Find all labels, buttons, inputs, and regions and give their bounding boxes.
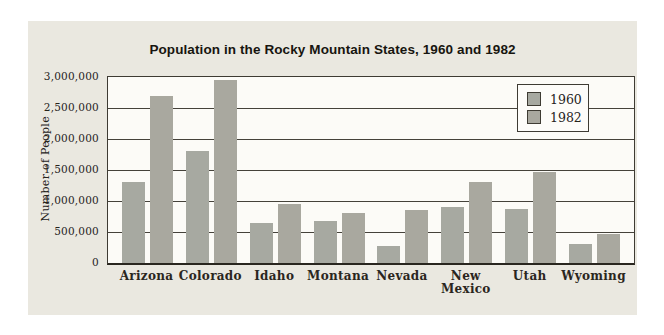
bar-wyoming-1960 (569, 244, 592, 263)
bar-idaho-1960 (250, 223, 273, 263)
bar-wyoming-1982 (597, 234, 620, 263)
bar-group-colorado (186, 80, 237, 263)
x-axis-labels: ArizonaColoradoIdahoMontanaNevadaNew Mex… (107, 270, 633, 304)
bar-group-arizona (122, 96, 173, 263)
bar-colorado-1960 (186, 151, 209, 263)
x-axis-label-wyoming: Wyoming (561, 270, 627, 283)
x-axis-label-utah: Utah (497, 270, 563, 283)
bar-group-nevada (377, 210, 428, 263)
bar-utah-1960 (505, 209, 528, 263)
chart-panel: Population in the Rocky Mountain States,… (28, 21, 637, 315)
y-tick-label: 500,000 (54, 225, 99, 237)
bar-montana-1960 (314, 221, 337, 263)
y-tick-label: 3,000,000 (44, 70, 99, 82)
bar-nevada-1960 (377, 246, 400, 263)
bar-group-utah (505, 172, 556, 263)
bar-idaho-1982 (278, 204, 301, 263)
x-axis-label-idaho: Idaho (241, 270, 307, 283)
y-axis-tick-labels: 0500,0001,000,0001,500,0002,000,0002,500… (28, 76, 103, 262)
bar-colorado-1982 (214, 80, 237, 263)
legend-label-1982: 1982 (550, 110, 582, 125)
legend: 19601982 (517, 84, 589, 132)
y-tick-label: 1,000,000 (44, 194, 99, 206)
bar-nevada-1982 (405, 210, 428, 263)
y-tick-label: 2,500,000 (44, 101, 99, 113)
bar-new-mexico-1960 (441, 207, 464, 263)
x-axis-label-montana: Montana (305, 270, 371, 283)
legend-swatch-1960 (527, 92, 541, 106)
x-axis-label-arizona: Arizona (114, 270, 180, 283)
bar-montana-1982 (342, 213, 365, 263)
legend-item-1960: 1960 (527, 90, 588, 108)
bar-utah-1982 (533, 172, 556, 263)
y-tick-label: 2,000,000 (44, 132, 99, 144)
legend-label-1960: 1960 (550, 92, 582, 107)
bar-arizona-1982 (150, 96, 173, 263)
y-tick-label: 0 (92, 256, 99, 268)
legend-item-1982: 1982 (527, 108, 588, 126)
bar-new-mexico-1982 (469, 182, 492, 263)
bar-group-montana (314, 213, 365, 263)
x-axis-label-new-mexico: New Mexico (433, 270, 499, 296)
bar-group-idaho (250, 204, 301, 263)
legend-swatch-1982 (527, 110, 541, 124)
x-axis-label-colorado: Colorado (177, 270, 243, 283)
y-tick-label: 1,500,000 (44, 163, 99, 175)
chart-title: Population in the Rocky Mountain States,… (28, 42, 637, 57)
x-axis-label-nevada: Nevada (369, 270, 435, 283)
bar-group-wyoming (569, 234, 620, 263)
bar-arizona-1960 (122, 182, 145, 263)
bar-group-new-mexico (441, 182, 492, 263)
